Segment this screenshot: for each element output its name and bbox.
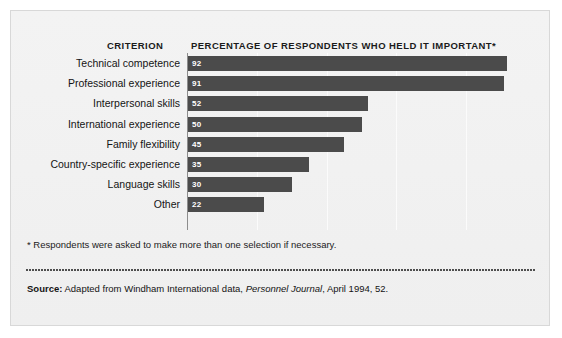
bar-value-label: 50: [192, 117, 202, 132]
figure-panel: CRITERION PERCENTAGE OF RESPONDENTS WHO …: [10, 10, 550, 326]
bar-value-label: 22: [192, 197, 202, 212]
source-text-before: Adapted from Windham International data,: [62, 283, 245, 294]
bar-row: Interpersonal skills52: [188, 96, 368, 111]
bar-value-label: 45: [192, 137, 202, 152]
bar-category-label: Family flexibility: [106, 137, 180, 152]
bar-row: Technical competence92: [188, 56, 507, 71]
bar-value-label: 35: [192, 157, 202, 172]
bar: 22: [188, 197, 264, 212]
bar-chart-plot-area: Technical competence92Professional exper…: [11, 11, 549, 325]
bar: 45: [188, 137, 344, 152]
bar-category-label: International experience: [68, 117, 180, 132]
bar: 35: [188, 157, 309, 172]
bar-row: Other22: [188, 197, 264, 212]
bar: 91: [188, 76, 504, 91]
bar: 92: [188, 56, 507, 71]
bar-category-label: Interpersonal skills: [93, 96, 180, 111]
bar: 30: [188, 177, 292, 192]
footnote: * Respondents were asked to make more th…: [27, 239, 336, 250]
dotted-divider: [26, 269, 536, 271]
source-label: Source:: [27, 283, 62, 294]
source-journal-title: Personnel Journal: [246, 283, 323, 294]
bar-row: Family flexibility45: [188, 137, 344, 152]
source-text-after: , April 1994, 52.: [322, 283, 388, 294]
bar: 52: [188, 96, 368, 111]
bar-category-label: Technical competence: [76, 56, 180, 71]
bar-category-label: Language skills: [108, 177, 180, 192]
bar-row: International experience50: [188, 117, 362, 132]
bar-category-label: Professional experience: [68, 76, 180, 91]
bar-value-label: 52: [192, 96, 202, 111]
bar-category-label: Country-specific experience: [50, 157, 180, 172]
bar-row: Language skills30: [188, 177, 292, 192]
bar-value-label: 30: [192, 177, 202, 192]
bar-category-label: Other: [154, 197, 180, 212]
bar: 50: [188, 117, 362, 132]
bar-value-label: 91: [192, 76, 202, 91]
source-line: Source: Adapted from Windham Internation…: [27, 283, 388, 294]
bar-value-label: 92: [192, 56, 202, 71]
bar-row: Professional experience91: [188, 76, 504, 91]
bar-row: Country-specific experience35: [188, 157, 309, 172]
